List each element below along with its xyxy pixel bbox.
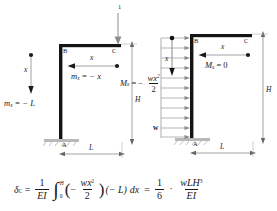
right-distributed-load-label: w xyxy=(153,124,158,132)
right-column-moment-num-exponent: 2 xyxy=(157,73,160,79)
equation-fraction-4-numerator: wLH3 xyxy=(178,178,204,189)
equation-fraction-3-numerator: 1 xyxy=(155,178,164,189)
right-joint-C-label: C xyxy=(244,38,248,45)
equation-equals-1: = xyxy=(25,184,31,195)
deflection-equation: δC = 1 EI ∫ H 0 ( − wx2 2 ) (− L) dx = xyxy=(0,168,277,211)
equation-fraction-2-denominator: 2 xyxy=(83,189,92,201)
left-joint-C-label: C xyxy=(112,48,116,55)
equation-fraction-1-numerator: 1 xyxy=(37,178,46,189)
right-column-moment-fraction: wx2 2 xyxy=(146,74,162,93)
equation-fraction-4-num-exponent: 3 xyxy=(200,178,203,184)
left-joint-A-label: A xyxy=(62,142,67,149)
left-column-moment-expression: mx= − L xyxy=(4,99,35,108)
left-support-hatch xyxy=(43,142,76,146)
equation-fraction-3-denominator: 6 xyxy=(155,189,164,201)
right-column-moment-equals: = xyxy=(131,79,136,88)
left-load-magnitude-label: 1 xyxy=(118,4,121,11)
equation-fraction-2: wx2 2 xyxy=(79,178,97,200)
right-beam-moment-value: = 0 xyxy=(216,60,227,70)
left-column-moment-subscript: x xyxy=(10,102,12,108)
left-beam-moment-value: = − x xyxy=(81,71,101,81)
equation-multiplication-dot: · xyxy=(169,183,172,194)
right-column-x-label: x xyxy=(165,55,168,63)
right-figure-graphic xyxy=(148,0,277,165)
equation-fraction-4: wLH3 EI xyxy=(178,178,204,200)
left-column-member xyxy=(59,44,62,139)
right-column-x-dimension xyxy=(169,36,174,76)
right-column-moment-numerator: wx2 xyxy=(146,74,162,83)
left-H-label: H xyxy=(135,96,140,104)
right-column-moment-subscript: x xyxy=(127,82,129,87)
right-L-label: L xyxy=(220,143,224,151)
right-figure-distributed-load: B C x x Mx= 0 Mx = − wx2 2 w H A L xyxy=(148,0,277,165)
right-beam-moment-subscript: x xyxy=(212,64,214,70)
integral-sign: ∫ xyxy=(53,183,58,195)
right-column-moment-minus: − xyxy=(138,79,143,88)
left-column-x-dimension xyxy=(28,53,33,94)
right-column-member xyxy=(190,34,193,138)
right-beam-moment-expression: Mx= 0 xyxy=(205,61,228,70)
right-beam-member xyxy=(190,34,252,37)
left-column-moment-value: = − L xyxy=(14,98,34,108)
figure-canvas: 1 B C x x mx= − x mx= − L H A L xyxy=(0,0,277,211)
left-beam-x-label: x xyxy=(90,54,93,62)
equation-paren-close: ) xyxy=(99,184,105,197)
equation-fraction-1-denominator: EI xyxy=(35,189,48,201)
left-beam-x-dimension xyxy=(68,63,120,68)
integral-lower-limit: 0 xyxy=(60,193,64,199)
left-beam-moment-subscript: x xyxy=(77,75,79,81)
right-joint-B-label: B xyxy=(194,38,198,45)
right-column-moment-denominator: 2 xyxy=(149,83,157,93)
left-unit-load-arrow xyxy=(115,13,122,45)
left-L-label: L xyxy=(89,144,93,152)
equation-differential: dx xyxy=(130,184,139,195)
equation-fraction-4-num-text: wLH xyxy=(180,177,199,188)
equation-paren-open: ( xyxy=(65,184,71,197)
left-beam-moment-expression: mx= − x xyxy=(71,72,101,81)
equation-fraction-1: 1 EI xyxy=(35,178,48,200)
right-beam-x-dimension xyxy=(199,52,251,57)
deflection-equation-body: δC = 1 EI ∫ H 0 ( − wx2 2 ) (− L) dx = xyxy=(14,178,207,200)
integral-upper-limit: H xyxy=(60,180,64,186)
right-support-hatch xyxy=(174,141,207,145)
right-beam-x-label: x xyxy=(221,43,224,51)
right-distributed-load xyxy=(161,36,190,139)
equation-fraction-2-num-exponent: 2 xyxy=(92,178,95,184)
right-column-moment-num-text: wx xyxy=(148,73,157,83)
equation-fraction-2-num-text: wx xyxy=(81,177,92,188)
right-column-moment-expression: Mx = − wx2 2 xyxy=(120,74,164,93)
equation-fraction-2-numerator: wx2 xyxy=(79,178,97,189)
equation-minus-sign: − xyxy=(70,184,76,195)
left-column-x-label: x xyxy=(24,66,27,74)
equation-factor-minus-L: (− L) xyxy=(105,184,126,195)
integral-limits: H 0 xyxy=(60,182,64,198)
equation-delta-subscript: C xyxy=(19,188,22,194)
right-joint-A-label: A xyxy=(193,141,198,148)
equation-equals-2: = xyxy=(144,184,150,195)
right-H-label: H xyxy=(266,86,271,94)
equation-fraction-4-denominator: EI xyxy=(185,189,198,201)
left-joint-B-label: B xyxy=(63,48,67,55)
equation-fraction-3: 1 6 xyxy=(155,178,164,200)
